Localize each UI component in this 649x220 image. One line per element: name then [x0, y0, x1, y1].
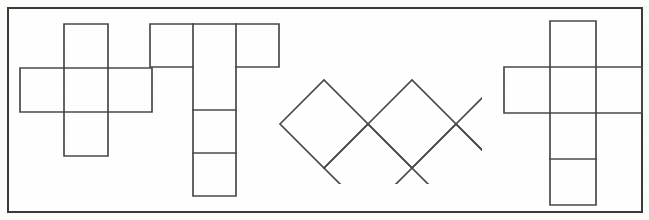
geometry-illustration: [0, 0, 649, 220]
figure-canvas: [0, 0, 649, 220]
